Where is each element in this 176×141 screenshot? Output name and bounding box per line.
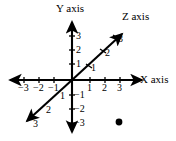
z-tick-1: 1 — [91, 63, 96, 73]
x-axis-label: X axis — [140, 74, 168, 85]
x-tick-3: 3 — [117, 83, 122, 93]
y-tick-3: 3 — [76, 31, 81, 41]
x-tick-neg-3: −3 — [18, 83, 29, 93]
diagram-canvas: Y axis X axis Z axis 3 2 1 −1 −2 −3 −3 −… — [0, 0, 176, 141]
z-tick-neg-1: 1 — [60, 91, 65, 101]
y-tick-neg-2: −2 — [74, 104, 85, 114]
z-axis-label: Z axis — [122, 11, 149, 22]
z-tick-neg-3: 3 — [33, 119, 38, 129]
y-tick-neg-1: −1 — [74, 90, 85, 100]
z-tick-3: 3 — [118, 34, 123, 44]
z-tick-neg-2: 2 — [46, 105, 51, 115]
y-axis-label: Y axis — [56, 3, 84, 14]
x-tick-1: 1 — [87, 83, 92, 93]
y-tick-1: 1 — [76, 59, 81, 69]
y-tick-2: 2 — [76, 45, 81, 55]
x-tick-2: 2 — [102, 83, 107, 93]
y-tick-neg-3: −3 — [74, 118, 85, 128]
x-tick-neg-1: −1 — [48, 83, 59, 93]
coordinate-axes-graphic — [0, 0, 176, 141]
z-tick-2: 2 — [105, 48, 110, 58]
plotted-point — [116, 119, 123, 126]
x-tick-neg-2: −2 — [33, 83, 44, 93]
